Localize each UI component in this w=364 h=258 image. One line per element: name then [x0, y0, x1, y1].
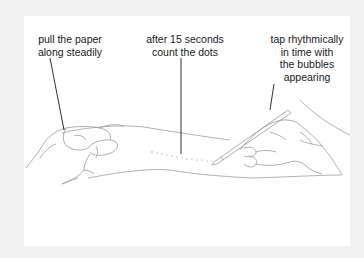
label-line: after 15 seconds — [140, 33, 230, 46]
leader-line-tap — [270, 84, 274, 110]
leader-line-pull — [50, 58, 64, 130]
label-line: pull the paper — [34, 33, 106, 46]
label-count-dots: after 15 seconds count the dots — [140, 33, 230, 58]
label-tap-rhythmically: tap rhythmically in time with the bubble… — [264, 33, 350, 83]
dot-trail — [151, 151, 212, 161]
label-pull-paper: pull the paper along steadily — [34, 33, 106, 58]
leader-lines — [50, 58, 274, 154]
label-line: along steadily — [34, 46, 106, 59]
label-line: count the dots — [140, 46, 230, 59]
label-line: appearing — [264, 71, 350, 84]
left-hand — [26, 125, 124, 184]
label-line: in time with — [264, 46, 350, 59]
label-line: the bubbles — [264, 58, 350, 71]
right-hand — [240, 120, 322, 174]
label-line: tap rhythmically — [264, 33, 350, 46]
